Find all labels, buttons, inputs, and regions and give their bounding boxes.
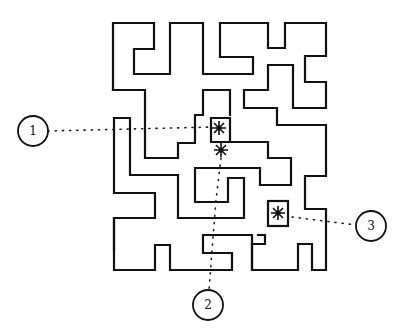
callout-1: 1: [18, 116, 48, 146]
callout-3: 3: [356, 211, 386, 241]
callout-3-label: 3: [367, 219, 375, 233]
star-marker-1-icon: [212, 121, 226, 135]
callout-2-label: 2: [204, 298, 212, 312]
callout-2: 2: [193, 290, 223, 320]
callout-1-label: 1: [29, 124, 37, 138]
star-marker-2-icon: [214, 143, 228, 157]
maze-wall: [114, 218, 252, 270]
maze-walls: [113, 23, 326, 270]
leader-line-3: [292, 217, 356, 225]
maze-diagram: 1 2 3: [0, 0, 401, 332]
star-marker-3-icon: [271, 206, 285, 220]
